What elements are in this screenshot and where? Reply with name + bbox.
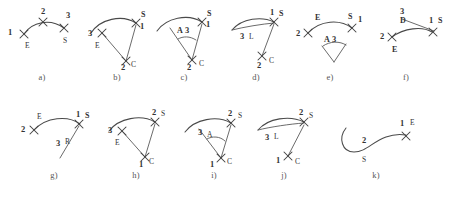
point-2-number: 2 [299, 107, 303, 117]
point-1-number: 1 [400, 118, 404, 128]
radius-line-start [145, 124, 155, 157]
point-3-letter: R [65, 137, 70, 146]
panel-e: 2 E S 1 A 3 e) [296, 6, 376, 70]
panel-f-drawing: 3 D 2 E 1 S [380, 6, 460, 70]
point-2-number: 2 [380, 31, 384, 41]
point-3-number: 3 [66, 10, 70, 20]
panel-g: 2 E 1 S 3 R g) [20, 108, 100, 168]
point-1-marker [348, 24, 356, 32]
point-2-letter: E [37, 112, 42, 121]
point-2-letter: S [238, 111, 242, 120]
panel-j-caption: j) [272, 170, 296, 180]
radius-line-start [126, 25, 136, 61]
spiral-curve [342, 128, 406, 152]
point-2-letter: C [131, 60, 136, 69]
point-2-letter: C [199, 59, 204, 68]
panel-e-caption: e) [318, 72, 342, 82]
point-2-number: 2 [121, 62, 125, 72]
panel-a: 1 E 2 3 S a) [8, 6, 90, 54]
point-3-letter: L [249, 32, 254, 41]
point-2-letter: S [362, 155, 366, 164]
panel-f: 3 D 2 E 1 S f) [380, 6, 460, 70]
point-2-number: 2 [296, 28, 300, 38]
radius-line-start [192, 24, 202, 60]
point-1-marker [20, 30, 28, 38]
panel-c-caption: c) [172, 72, 196, 82]
point-2-number: 2 [187, 62, 191, 72]
angle-leg-left [322, 46, 334, 62]
panel-g-drawing: 2 E 1 S 3 R [20, 108, 100, 168]
point-2-number: 2 [257, 60, 261, 70]
point-1-letter: S [348, 12, 353, 21]
point-1-letter: S [438, 16, 443, 25]
panel-h-caption: h) [124, 170, 148, 180]
radius-line-start [221, 125, 231, 158]
point-3-letter: L [274, 132, 279, 141]
panel-d: 1 S 3 L 2 C d) [224, 6, 302, 70]
point-3-letter: A [207, 130, 213, 139]
point-3-number: 3 [185, 25, 189, 35]
panel-i-drawing: 2 S 3 A 1 C [180, 108, 258, 168]
point-3-number: 3 [108, 125, 112, 135]
point-2-marker [304, 29, 312, 37]
point-1-marker [217, 154, 225, 162]
point-1-number: 1 [358, 14, 362, 24]
panel-i-caption: i) [202, 170, 226, 180]
panel-a-drawing: 1 E 2 3 S [8, 6, 90, 54]
radius-line-start [288, 125, 304, 156]
point-1-number: 1 [429, 15, 433, 25]
point-2-letter: S [309, 111, 313, 120]
point-3-number: 3 [198, 127, 202, 137]
point-1-number: 1 [270, 7, 274, 17]
panel-k: 2 S 1 E k) [336, 108, 424, 168]
panel-h-drawing: 2 S 3 E 1 C [102, 108, 182, 168]
point-2-marker [258, 52, 266, 60]
point-2-number: 2 [41, 6, 45, 16]
point-1-number: 1 [8, 27, 12, 37]
arc-curve [91, 18, 136, 33]
arc-curve [392, 29, 432, 37]
point-2-number: 2 [21, 124, 25, 134]
point-1-number: 1 [76, 109, 80, 119]
point-1-letter: C [295, 157, 300, 166]
point-3-letter: A [324, 35, 330, 44]
arc-curve [24, 22, 64, 34]
arc-curve [109, 118, 155, 131]
point-2-letter: E [392, 45, 397, 54]
panel-a-caption: a) [30, 72, 54, 82]
panel-k-drawing: 2 S 1 E [336, 108, 424, 168]
point-1-letter: S [279, 9, 284, 18]
point-3-letter: S [63, 36, 67, 45]
point-3-letter: E [95, 41, 100, 50]
point-3-number: 3 [240, 31, 244, 41]
point-1-letter: S [85, 111, 90, 120]
point-2-number: 2 [228, 108, 232, 118]
point-2-number: 2 [152, 107, 156, 117]
point-2-marker [30, 126, 38, 134]
point-1-number: 1 [276, 155, 280, 165]
point-1-letter: C [227, 157, 232, 166]
point-1-letter: C [149, 157, 154, 166]
point-1-marker [429, 28, 437, 36]
panel-f-caption: f) [394, 72, 418, 82]
point-3-marker [118, 127, 126, 135]
point-1-letter: E [25, 41, 30, 50]
point-1-number: 1 [210, 159, 214, 169]
point-1-letter: S [207, 9, 212, 18]
panel-b-caption: b) [105, 72, 129, 82]
point-3-letter: D [400, 16, 406, 25]
panel-c-drawing: S 1 A 3 2 C [152, 6, 230, 70]
point-3-number: 3 [400, 6, 404, 16]
panel-j-drawing: 2 S 3 L 1 C [252, 108, 330, 168]
point-1-marker [402, 132, 410, 140]
point-2-letter: C [269, 56, 274, 65]
panel-g-caption: g) [42, 170, 66, 180]
panel-d-drawing: 1 S 3 L 2 C [224, 6, 302, 70]
point-3-letter: E [115, 138, 120, 147]
panel-j: 2 S 3 L 1 C j) [252, 108, 330, 168]
panel-e-drawing: 2 E S 1 A 3 [296, 6, 376, 70]
panel-d-caption: d) [244, 72, 268, 82]
panel-c: S 1 A 3 2 C c) [152, 6, 230, 70]
arc-curve [308, 22, 352, 33]
point-2-number: 2 [362, 135, 366, 145]
